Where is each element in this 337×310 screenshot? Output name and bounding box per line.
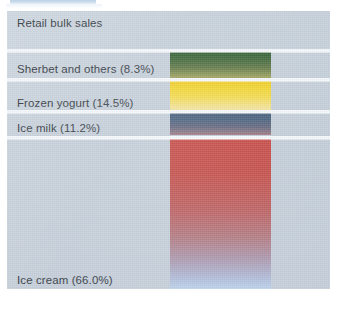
bar-segment-ice-cream — [170, 138, 271, 289]
bar-segment-ice-milk — [170, 113, 271, 135]
segment-label-ice-milk: Ice milk (11.2%) — [17, 122, 100, 134]
scan-artifact-fade — [6, 4, 102, 9]
divider-ice-milk-ice-cream — [7, 136, 330, 139]
panel-vignette — [7, 11, 330, 289]
stacked-bar — [170, 52, 271, 289]
segment-label-frozen-yogurt: Frozen yogurt (14.5%) — [17, 97, 134, 109]
segment-label-sherbet-and-others: Sherbet and others (8.3%) — [17, 63, 154, 75]
paper-grain-texture — [7, 11, 330, 289]
bar-segment-sherbet-and-others — [170, 52, 271, 78]
divider-sherbet-yogurt — [7, 78, 330, 81]
divider-above-sherbet — [7, 49, 330, 52]
chart-title: Retail bulk sales — [17, 17, 102, 29]
bar-segment-frozen-yogurt — [170, 81, 271, 110]
chart-panel: Retail bulk sales Sherbet and others (8.… — [7, 11, 330, 289]
segment-label-ice-cream: Ice cream (66.0%) — [17, 274, 113, 286]
divider-yogurt-ice-milk — [7, 110, 330, 113]
